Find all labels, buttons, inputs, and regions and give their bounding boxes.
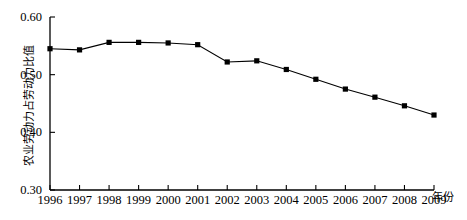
data-point-2004 <box>284 67 289 72</box>
data-line-series-1 <box>50 42 434 115</box>
chart-container: 农业劳动力占劳动力比值 0.600.500.400.30 19961997199… <box>0 0 467 220</box>
data-point-2009 <box>431 112 436 117</box>
data-point-2007 <box>372 95 377 100</box>
data-point-1999 <box>136 40 141 45</box>
data-point-2000 <box>166 40 171 45</box>
data-point-1997 <box>77 47 82 52</box>
data-point-1998 <box>106 40 111 45</box>
data-point-2002 <box>225 59 230 64</box>
data-point-2005 <box>313 77 318 82</box>
plot-area <box>0 0 467 220</box>
data-point-markers <box>47 40 436 118</box>
x-axis-title: 年份 <box>432 188 454 204</box>
data-point-1996 <box>47 46 52 51</box>
data-point-2006 <box>343 86 348 91</box>
data-point-2003 <box>254 58 259 63</box>
data-point-2001 <box>195 42 200 47</box>
data-point-2008 <box>402 103 407 108</box>
